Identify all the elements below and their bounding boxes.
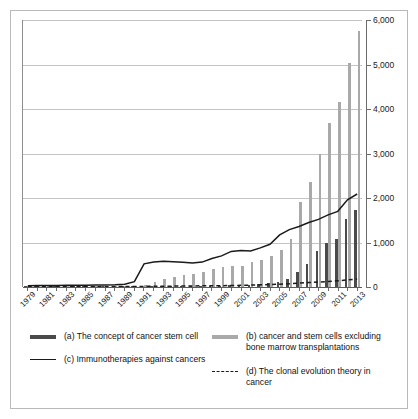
x-tick-mark-2012	[347, 288, 348, 291]
legend-swatch-d-icon	[212, 371, 238, 372]
x-tick-mark-2000	[231, 288, 232, 291]
x-tick-label-1985: 1985	[77, 290, 96, 309]
chart-figure: 01,0002,0003,0004,0005,0006,000 19791981…	[0, 0, 418, 419]
x-tick-label-2009: 2009	[310, 290, 329, 309]
plot-wrapper	[22, 20, 362, 287]
x-tick-label-1979: 1979	[18, 290, 37, 309]
chart-legend: (a) The concept of cancer stem cell (c) …	[22, 331, 394, 403]
lines-layer	[23, 20, 362, 287]
x-tick-mark-1991	[143, 288, 144, 291]
x-tick-mark-1981	[46, 288, 47, 291]
legend-label-c: (c) Immunotherapies against cancers	[64, 354, 205, 364]
y-tick-mark-5000	[366, 65, 371, 66]
x-tick-mark-1996	[192, 288, 193, 291]
x-tick-label-1983: 1983	[57, 290, 76, 309]
y-tick-label-0: 0	[366, 282, 378, 292]
x-tick-mark-1982	[56, 288, 57, 291]
legend-item-d: (d) The clonal evolution theory in cance…	[212, 366, 388, 389]
legend-swatch-c-icon	[30, 359, 56, 360]
legend-swatch-b-icon	[212, 335, 238, 339]
y-tick-label-6000: 6,000	[366, 15, 394, 25]
x-tick-mark-2004	[270, 288, 271, 291]
x-tick-label-2007: 2007	[290, 290, 309, 309]
y-tick-mark-3000	[366, 154, 371, 155]
x-tick-label-1991: 1991	[135, 290, 154, 309]
x-tick-mark-2007	[299, 288, 300, 291]
x-tick-label-1981: 1981	[38, 290, 57, 309]
legend-label-a: (a) The concept of cancer stem cell	[64, 331, 198, 341]
x-tick-mark-1997	[202, 288, 203, 291]
x-tick-mark-1983	[66, 288, 67, 291]
x-tick-label-2005: 2005	[271, 290, 290, 309]
y-tick-mark-0	[366, 287, 371, 288]
x-tick-label-2003: 2003	[251, 290, 270, 309]
y-tick-label-2000: 2,000	[366, 193, 394, 203]
plot-area	[22, 20, 362, 287]
x-tick-mark-1998	[211, 288, 212, 291]
x-tick-mark-1990	[134, 288, 135, 291]
x-tick-mark-1986	[95, 288, 96, 291]
y-tick-mark-2000	[366, 198, 371, 199]
y-tick-mark-6000	[366, 20, 371, 21]
x-tick-mark-1992	[153, 288, 154, 291]
x-tick-label-2011: 2011	[330, 290, 349, 309]
x-tick-label-1989: 1989	[115, 290, 134, 309]
y-tick-mark-4000	[366, 109, 371, 110]
x-tick-mark-2002	[250, 288, 251, 291]
x-tick-mark-2001	[241, 288, 242, 291]
legend-column-right: (b) cancer and stem cells excluding bone…	[212, 331, 388, 401]
x-tick-mark-1994	[173, 288, 174, 291]
legend-label-d: (d) The clonal evolution theory in cance…	[246, 366, 371, 387]
line-series-c	[28, 194, 357, 286]
legend-swatch-a-icon	[30, 335, 56, 339]
x-tick-label-1997: 1997	[193, 290, 212, 309]
y-tick-label-1000: 1,000	[366, 238, 394, 248]
x-tick-mark-2005	[279, 288, 280, 291]
x-axis-labels: 1979198119831985198719891991199319951997…	[22, 288, 362, 328]
legend-item-a: (a) The concept of cancer stem cell	[30, 331, 206, 342]
x-tick-mark-2013	[357, 288, 358, 291]
x-tick-mark-1985	[85, 288, 86, 291]
y-tick-mark-1000	[366, 243, 371, 244]
y-axis-labels: 01,0002,0003,0004,0005,0006,000	[366, 20, 410, 287]
x-tick-mark-1984	[75, 288, 76, 291]
y-tick-label-5000: 5,000	[366, 60, 394, 70]
x-tick-mark-1993	[163, 288, 164, 291]
x-tick-label-1999: 1999	[213, 290, 232, 309]
legend-item-c: (c) Immunotherapies against cancers	[30, 354, 206, 365]
x-tick-mark-1987	[105, 288, 106, 291]
legend-label-b: (b) cancer and stem cells excluding bone…	[246, 331, 381, 352]
x-tick-mark-2011	[338, 288, 339, 291]
x-tick-mark-1979	[27, 288, 28, 291]
x-tick-mark-1989	[124, 288, 125, 291]
x-tick-mark-2003	[260, 288, 261, 291]
x-tick-label-1987: 1987	[96, 290, 115, 309]
x-tick-mark-1999	[221, 288, 222, 291]
x-tick-mark-2006	[289, 288, 290, 291]
x-tick-label-1993: 1993	[154, 290, 173, 309]
x-tick-mark-2008	[309, 288, 310, 291]
x-tick-mark-1980	[37, 288, 38, 291]
x-tick-mark-1995	[182, 288, 183, 291]
x-tick-mark-1988	[114, 288, 115, 291]
y-tick-label-3000: 3,000	[366, 149, 394, 159]
legend-column-left: (a) The concept of cancer stem cell (c) …	[30, 331, 206, 378]
x-tick-label-2001: 2001	[232, 290, 251, 309]
x-tick-mark-2009	[318, 288, 319, 291]
x-tick-label-1995: 1995	[174, 290, 193, 309]
legend-item-b: (b) cancer and stem cells excluding bone…	[212, 331, 388, 354]
y-tick-label-4000: 4,000	[366, 104, 394, 114]
x-tick-mark-2010	[328, 288, 329, 291]
